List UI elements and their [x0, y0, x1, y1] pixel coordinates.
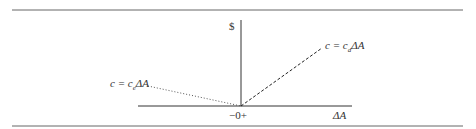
label-pre: c = c: [325, 39, 348, 51]
label-pre: c = c: [110, 77, 133, 89]
y-axis-label-text: $: [229, 20, 235, 32]
label-post: ΔA: [136, 77, 149, 89]
y-axis-label: $: [229, 21, 235, 32]
series-dashed-label: c = cdΔA: [325, 40, 364, 53]
origin-label: −0+: [229, 110, 247, 121]
label-post: ΔA: [351, 39, 364, 51]
label-sub: d: [348, 46, 352, 54]
cost-diagram-figure: $ c = cdΔA c = ceΔA −0+ ΔA: [0, 0, 476, 129]
x-axis-label: ΔA: [333, 110, 346, 121]
x-axis-label-text: ΔA: [333, 109, 346, 121]
series-dotted-label: c = ceΔA: [110, 78, 149, 91]
series-dotted-line: [148, 86, 241, 106]
origin-label-text: −0+: [229, 109, 247, 121]
label-sub: e: [133, 84, 136, 92]
series-dashed-line: [241, 48, 322, 106]
